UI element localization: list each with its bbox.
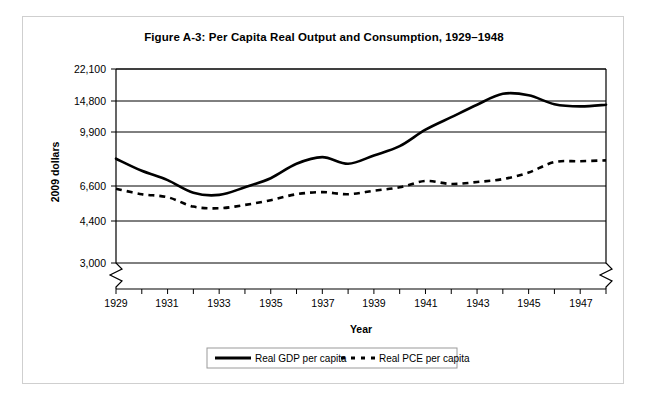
series-line-real-pce-per-capita [116,160,606,208]
right-axis-with-break [600,69,612,289]
y-tick-label-22100: 22,100 [74,63,106,75]
x-tick-label-1941: 1941 [414,297,438,309]
y-tick-label-4400: 4,400 [80,215,106,227]
series-line-real-gdp-per-capita [116,93,606,195]
x-tick-label-1943: 1943 [466,297,490,309]
y-axis-with-break [110,69,122,289]
x-tick-label-1931: 1931 [155,297,179,309]
y-tick-label-3000: 3,000 [80,257,106,269]
gridlines [116,69,606,263]
x-tick-label-1929: 1929 [104,297,128,309]
axis-frame [110,69,612,289]
y-tick-labels: 22,100 14,800 9,900 6,600 4,400 3,000 [74,63,106,269]
y-axis-title: 2009 dollars [49,141,61,202]
x-tick-label-1933: 1933 [207,297,231,309]
x-tick-label-1947: 1947 [569,297,593,309]
x-tick-label-1937: 1937 [311,297,335,309]
chart-legend: Real GDP per capita Real PCE per capita [207,348,470,368]
figure-container: Figure A-3: Per Capita Real Output and C… [22,16,624,384]
y-tick-label-6600: 6,600 [80,180,106,192]
chart-svg: 22,100 14,800 9,900 6,600 4,400 3,000 20… [23,17,625,385]
y-tick-label-14800: 14,800 [74,95,106,107]
x-tick-label-1945: 1945 [517,297,541,309]
x-tick-labels: 1929 1931 1933 1935 1937 1939 1941 1943 … [104,297,593,309]
y-tickmarks [111,69,116,263]
x-tick-label-1939: 1939 [362,297,386,309]
y-tick-label-9900: 9,900 [80,126,106,138]
chart-plot-area: 22,100 14,800 9,900 6,600 4,400 3,000 20… [23,17,625,385]
legend-label-real-gdp-per-capita: Real GDP per capita [255,353,347,364]
x-tickmarks [116,289,606,294]
x-axis-title: Year [350,323,372,335]
legend-label-real-pce-per-capita: Real PCE per capita [379,353,470,364]
x-tick-label-1935: 1935 [259,297,283,309]
